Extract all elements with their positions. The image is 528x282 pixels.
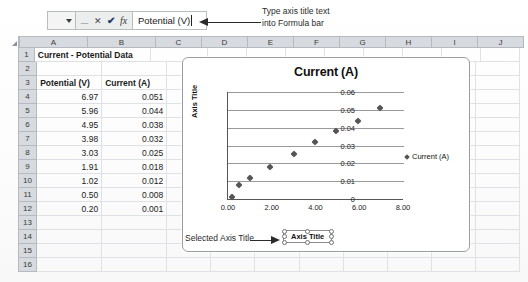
- cell-g16[interactable]: [344, 258, 388, 272]
- cell-a10[interactable]: 1.02: [37, 174, 102, 188]
- row-header-2[interactable]: 2: [18, 62, 37, 76]
- cell-j6[interactable]: [476, 118, 520, 132]
- cell-b5[interactable]: 0.044: [102, 104, 167, 118]
- cell-b12[interactable]: 0.001: [102, 202, 167, 216]
- row-header-16[interactable]: 16: [18, 258, 37, 272]
- cell-i16[interactable]: [432, 258, 476, 272]
- cell-j7[interactable]: [476, 132, 520, 146]
- cell-b15[interactable]: [102, 244, 167, 258]
- scatter-point[interactable]: [247, 174, 254, 181]
- resize-handle-e[interactable]: [329, 234, 334, 239]
- cell-a1[interactable]: Current - Potential Data: [35, 48, 151, 62]
- cell-j14[interactable]: [476, 230, 520, 244]
- cell-j5[interactable]: [476, 104, 520, 118]
- cell-a7[interactable]: 3.98: [37, 132, 102, 146]
- cell-b14[interactable]: [102, 230, 167, 244]
- column-header-g[interactable]: G: [340, 36, 386, 48]
- confirm-check-icon[interactable]: ✔: [104, 12, 117, 29]
- resize-handle-ne[interactable]: [329, 229, 334, 234]
- cell-a2[interactable]: [37, 62, 102, 76]
- cell-j16[interactable]: [476, 258, 520, 272]
- cell-a4[interactable]: 6.97: [37, 90, 102, 104]
- cell-b8[interactable]: 0.025: [102, 146, 167, 160]
- resize-handle-s[interactable]: [305, 240, 310, 245]
- column-header-e[interactable]: E: [248, 36, 294, 48]
- selected-axis-title-box[interactable]: Axis Title: [283, 230, 332, 243]
- cell-d16[interactable]: [211, 258, 255, 272]
- row-header-7[interactable]: 7: [18, 132, 37, 146]
- cell-a8[interactable]: 3.03: [37, 146, 102, 160]
- cancel-x-icon[interactable]: ✕: [91, 12, 104, 29]
- cell-b3[interactable]: Current (A): [102, 76, 167, 90]
- column-header-h[interactable]: H: [386, 36, 432, 48]
- cell-b16[interactable]: [102, 258, 167, 272]
- row-header-14[interactable]: 14: [18, 230, 37, 244]
- select-all-corner-icon[interactable]: [18, 36, 20, 48]
- row-header-15[interactable]: 15: [18, 244, 37, 258]
- plot-area[interactable]: 00.010.020.030.040.050.060.002.004.006.0…: [227, 92, 403, 200]
- cell-j12[interactable]: [476, 202, 520, 216]
- cell-j1[interactable]: [481, 48, 520, 62]
- resize-handle-n[interactable]: [305, 229, 310, 234]
- cell-a9[interactable]: 1.91: [37, 160, 102, 174]
- cell-b9[interactable]: 0.018: [102, 160, 167, 174]
- resize-handle-sw[interactable]: [282, 240, 287, 245]
- name-box[interactable]: [47, 11, 75, 30]
- cell-a14[interactable]: [37, 230, 102, 244]
- column-header-j[interactable]: J: [478, 36, 524, 48]
- insert-function-fx-icon[interactable]: fx: [117, 12, 130, 29]
- row-header-3[interactable]: 3: [18, 76, 37, 90]
- row-header-12[interactable]: 12: [18, 202, 37, 216]
- column-header-c[interactable]: C: [156, 36, 202, 48]
- cell-h16[interactable]: [388, 258, 432, 272]
- cell-a6[interactable]: 4.95: [37, 118, 102, 132]
- row-header-6[interactable]: 6: [18, 118, 37, 132]
- cell-j2[interactable]: [476, 62, 520, 76]
- column-header-i[interactable]: I: [432, 36, 478, 48]
- cell-f16[interactable]: [300, 258, 344, 272]
- scatter-point[interactable]: [235, 181, 242, 188]
- row-header-10[interactable]: 10: [18, 174, 37, 188]
- scatter-point[interactable]: [229, 194, 236, 201]
- row-header-8[interactable]: 8: [18, 146, 37, 160]
- chart-title[interactable]: Current (A): [183, 65, 469, 79]
- cell-j8[interactable]: [476, 146, 520, 160]
- cell-b6[interactable]: 0.038: [102, 118, 167, 132]
- row-header-11[interactable]: 11: [18, 188, 37, 202]
- cell-a13[interactable]: [37, 216, 102, 230]
- row-header-1[interactable]: 1: [18, 48, 35, 62]
- cell-j13[interactable]: [476, 216, 520, 230]
- cell-b13[interactable]: [102, 216, 167, 230]
- chart-object[interactable]: Current (A) Axis Title 00.010.020.030.04…: [182, 57, 470, 252]
- cell-b2[interactable]: [102, 62, 167, 76]
- cell-b11[interactable]: 0.008: [102, 188, 167, 202]
- resize-handle-w[interactable]: [282, 234, 287, 239]
- scatter-point[interactable]: [355, 117, 362, 124]
- scatter-point[interactable]: [266, 163, 273, 170]
- cell-a11[interactable]: 0.50: [37, 188, 102, 202]
- cell-j3[interactable]: [476, 76, 520, 90]
- cell-b10[interactable]: 0.012: [102, 174, 167, 188]
- cell-a5[interactable]: 5.96: [37, 104, 102, 118]
- column-header-d[interactable]: D: [202, 36, 248, 48]
- column-header-b[interactable]: B: [88, 36, 156, 48]
- row-header-13[interactable]: 13: [18, 216, 37, 230]
- cell-c16[interactable]: [167, 258, 211, 272]
- row-header-5[interactable]: 5: [18, 104, 37, 118]
- chart-legend[interactable]: Current (A): [405, 152, 449, 161]
- cell-e16[interactable]: [255, 258, 299, 272]
- y-axis-title[interactable]: Axis Title: [190, 85, 199, 118]
- resize-handle-se[interactable]: [329, 240, 334, 245]
- column-header-f[interactable]: F: [294, 36, 340, 48]
- cell-a12[interactable]: 0.20: [37, 202, 102, 216]
- cell-j15[interactable]: [476, 244, 520, 258]
- cell-j11[interactable]: [476, 188, 520, 202]
- cell-j9[interactable]: [476, 160, 520, 174]
- dropdown-caret-icon[interactable]: [66, 19, 72, 23]
- row-header-4[interactable]: 4: [18, 90, 37, 104]
- cell-a16[interactable]: [37, 258, 102, 272]
- cell-b4[interactable]: 0.051: [102, 90, 167, 104]
- cell-j4[interactable]: [476, 90, 520, 104]
- row-header-9[interactable]: 9: [18, 160, 37, 174]
- formula-bar-input[interactable]: Potential (V): [132, 11, 207, 30]
